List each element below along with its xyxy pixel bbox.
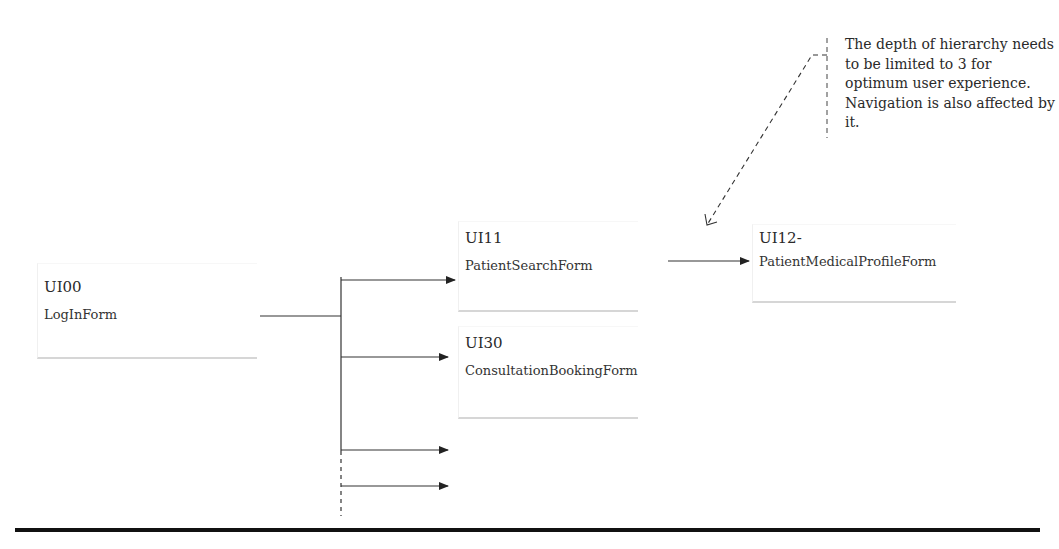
node-name: PatientSearchForm — [465, 258, 592, 273]
node-ui00: UI00 LogInForm — [37, 263, 257, 359]
node-ui12: UI12- PatientMedicalProfileForm — [752, 224, 956, 303]
node-name: PatientMedicalProfileForm — [759, 254, 936, 269]
node-ui11: UI11 PatientSearchForm — [458, 221, 638, 312]
node-name: LogInForm — [44, 307, 117, 322]
node-code: UI12- — [759, 229, 802, 247]
node-code: UI11 — [465, 229, 503, 247]
annotation-leader — [707, 55, 827, 225]
annotation-note: The depth of hierarchy needs to be limit… — [845, 35, 1055, 133]
node-code: UI30 — [465, 334, 503, 352]
node-ui30: UI30 ConsultationBookingForm — [458, 326, 638, 419]
node-name: ConsultationBookingForm — [465, 363, 638, 378]
bottom-rule — [15, 528, 1040, 532]
node-code: UI00 — [44, 278, 82, 296]
